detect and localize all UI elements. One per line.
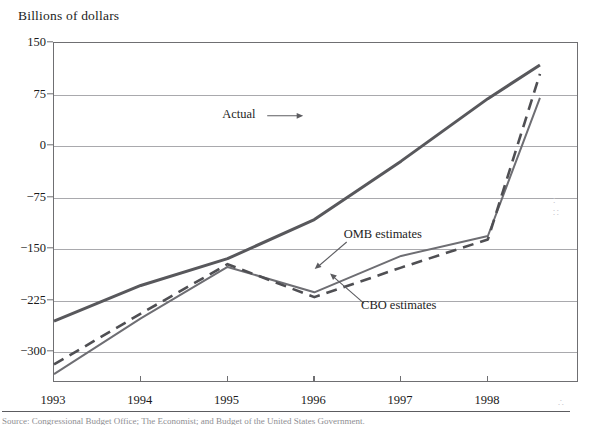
scan-artifact: ∶ <box>553 196 555 206</box>
scan-artifact: ∷ <box>553 208 559 218</box>
leader-omb <box>319 242 347 266</box>
series-layer <box>54 43 579 383</box>
y-axis-tick-label: −225 <box>0 292 46 307</box>
x-axis-tick-label: 1996 <box>301 393 326 408</box>
series-line-omb-estimates <box>54 98 540 374</box>
source-divider <box>2 411 570 412</box>
source-note: Source: Congressional Budget Office; The… <box>2 416 562 425</box>
scan-artifact: ∴ <box>558 398 564 408</box>
x-axis-tick-label: 1998 <box>474 393 499 408</box>
y-axis-tick-label: −300 <box>0 344 46 359</box>
annotation-actual: Actual <box>222 107 255 122</box>
y-axis-tick-label: 0 <box>0 138 46 153</box>
arrowhead-actual <box>297 113 304 119</box>
leader-cbo <box>334 277 364 303</box>
y-axis-tick-label: 75 <box>0 86 46 101</box>
x-axis-tick-label: 1997 <box>388 393 413 408</box>
annotation-omb-estimates: OMB estimates <box>344 227 422 242</box>
series-line-actual <box>54 65 540 321</box>
chart-figure: Billions of dollars 150750−75−150−225−30… <box>0 0 591 425</box>
y-axis-title: Billions of dollars <box>18 8 119 24</box>
y-axis-tick-label: −75 <box>0 189 46 204</box>
x-axis-tick-label: 1994 <box>127 393 152 408</box>
x-axis-tick-label: 1995 <box>214 393 239 408</box>
plot-area <box>53 42 578 382</box>
y-axis-tick-label: 150 <box>0 35 46 50</box>
y-axis-tick-label: −150 <box>0 241 46 256</box>
x-axis-tick-label: 1993 <box>41 393 66 408</box>
annotation-cbo-estimates: CBO estimates <box>361 298 436 313</box>
arrowhead-omb <box>315 263 322 269</box>
